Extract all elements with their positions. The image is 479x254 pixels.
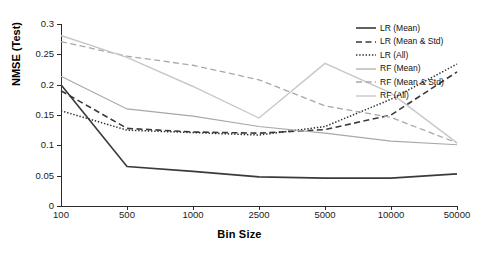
legend: LR (Mean)LR (Mean & Std)LR (All)RF (Mean…	[356, 22, 474, 103]
legend-item-label: RF (Mean)	[380, 64, 421, 73]
y-tick-mark	[57, 206, 61, 207]
x-tick-label: 10000	[378, 210, 404, 220]
y-tick-mark	[57, 85, 61, 86]
y-tick-mark	[57, 145, 61, 146]
legend-line-swatch-icon	[356, 23, 376, 33]
legend-item-label: RF (Mean & Std)	[380, 78, 444, 87]
y-tick-mark	[57, 24, 61, 25]
legend-item[interactable]: RF (All)	[356, 90, 474, 102]
x-tick-label: 50000	[444, 210, 470, 220]
legend-item-label: RF (All)	[380, 91, 409, 100]
legend-item[interactable]: LR (All)	[356, 49, 474, 61]
y-tick-mark	[57, 54, 61, 55]
chart-container: 00.050.10.150.20.250.3 10050010002500500…	[0, 0, 479, 254]
legend-line-swatch-icon	[356, 77, 376, 87]
legend-item[interactable]: RF (Mean & Std)	[356, 76, 474, 88]
y-tick-label: 0.2	[41, 80, 54, 90]
legend-line-swatch-icon	[356, 37, 376, 47]
x-tick-label: 5000	[314, 210, 335, 220]
y-tick-label: 0.1	[41, 140, 54, 150]
y-axis-label: NMSE (Test)	[10, 0, 22, 134]
y-tick-label: 0.3	[41, 19, 54, 29]
legend-line-swatch-icon	[356, 50, 376, 60]
legend-item-label: LR (Mean & Std)	[380, 37, 443, 46]
x-tick-label: 1000	[182, 210, 203, 220]
y-tick-mark	[57, 176, 61, 177]
legend-item-label: LR (Mean)	[380, 24, 420, 33]
y-tick-label: 0.25	[36, 49, 55, 59]
legend-line-swatch-icon	[356, 91, 376, 101]
legend-item[interactable]: LR (Mean & Std)	[356, 36, 474, 48]
y-tick-label: 0.05	[36, 171, 55, 181]
x-axis-label: Bin Size	[0, 228, 479, 240]
legend-item[interactable]: RF (Mean)	[356, 63, 474, 75]
x-tick-label: 2500	[248, 210, 269, 220]
legend-item[interactable]: LR (Mean)	[356, 22, 474, 34]
legend-line-swatch-icon	[356, 64, 376, 74]
legend-item-label: LR (All)	[380, 51, 408, 60]
x-tick-label: 100	[53, 210, 69, 220]
y-tick-mark	[57, 115, 61, 116]
x-tick-label: 500	[119, 210, 135, 220]
y-axis-line	[61, 24, 62, 206]
y-tick-label: 0.15	[36, 110, 55, 120]
